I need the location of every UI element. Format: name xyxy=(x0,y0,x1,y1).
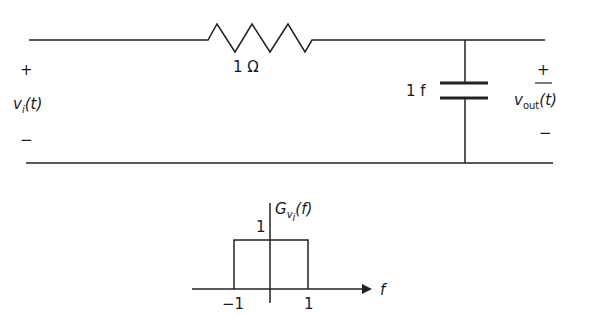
axis-arrow-icon xyxy=(362,284,372,294)
input-plus: + xyxy=(20,63,33,78)
circuit-diagram: 1 Ω 1 f + vi(t) − + vout(t) − Gvi(f) 1 f… xyxy=(0,0,590,317)
top-wire xyxy=(29,24,545,52)
diagram-lines xyxy=(0,0,590,317)
spectrum-y-label: Gvi(f) xyxy=(275,202,312,223)
f-axis-label: f xyxy=(380,283,385,298)
input-voltage-label: vi(t) xyxy=(13,97,42,115)
height-label: 1 xyxy=(256,220,266,235)
output-minus: − xyxy=(539,126,552,141)
output-plus: + xyxy=(537,63,550,78)
tick-neg-one: −1 xyxy=(222,297,244,312)
resistor-label: 1 Ω xyxy=(233,60,259,75)
input-minus: − xyxy=(20,133,33,148)
capacitor-label: 1 f xyxy=(406,84,426,99)
tick-one: 1 xyxy=(304,297,314,312)
output-voltage-label: vout(t) xyxy=(514,93,557,111)
spectrum-rect xyxy=(234,240,308,289)
